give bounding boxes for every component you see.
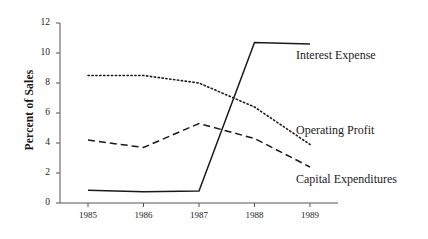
series-line-interest-expense [88,43,310,192]
y-axis-tick-marks [56,23,60,203]
series-line-operating-profit [88,76,310,145]
x-axis-tick-marks [88,203,310,207]
chart-figure: Percent of Sales 024681012 1985198619871… [0,0,428,239]
series-label-capital-expenditures: Capital Expenditures [296,172,397,187]
plot-area [0,0,428,239]
series-line-capital-expenditures [88,124,310,168]
series-lines [88,43,310,192]
series-label-operating-profit: Operating Profit [296,123,374,138]
series-label-interest-expense: Interest Expense [296,48,376,63]
